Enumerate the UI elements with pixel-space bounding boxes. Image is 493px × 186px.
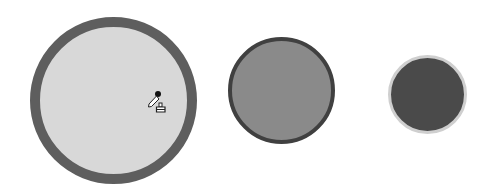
color-swatch-medium[interactable] [228, 37, 335, 144]
color-swatch-small[interactable] [388, 55, 467, 134]
eyedropper-fill-icon [146, 90, 172, 116]
